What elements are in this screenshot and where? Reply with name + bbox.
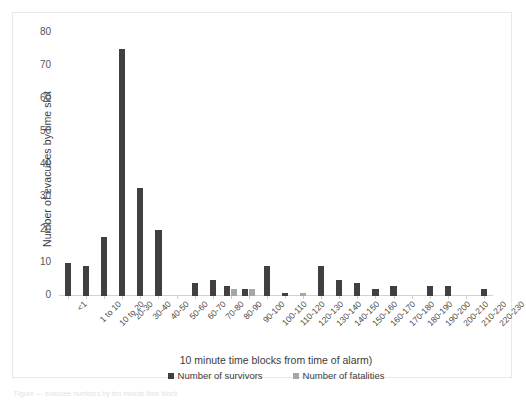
- bar-group: [59, 33, 493, 296]
- bar-survivors[interactable]: [119, 49, 125, 296]
- bar-survivors[interactable]: [192, 283, 198, 296]
- bar-survivors[interactable]: [318, 266, 324, 296]
- bar-survivors[interactable]: [390, 286, 396, 296]
- bar-slot: [276, 33, 294, 296]
- bar-survivors[interactable]: [445, 286, 451, 296]
- x-axis-tick-label: 40-50: [169, 299, 191, 321]
- bar-survivors[interactable]: [83, 266, 89, 296]
- y-axis-tick-label: 30: [25, 190, 51, 201]
- bar-slot: [366, 33, 384, 296]
- bar-slot: [348, 33, 366, 296]
- chart-figure: Number of evacuees by time slot 80706050…: [12, 12, 512, 378]
- y-axis-tick-label: 20: [25, 223, 51, 234]
- x-axis-title: 10 minute time blocks from time of alarm…: [59, 354, 493, 366]
- x-axis-tick-labels: <11 to 1010 to 2020-3030-4040-5050-6060-…: [59, 299, 493, 353]
- legend-entry[interactable]: Number of fatalities: [293, 370, 385, 381]
- bar-fatalities[interactable]: [249, 289, 255, 296]
- legend-label: Number of fatalities: [303, 370, 385, 381]
- y-axis-tick-label: 0: [25, 289, 51, 300]
- bar-slot: [204, 33, 222, 296]
- bar-survivors[interactable]: [224, 286, 230, 296]
- bar-survivors[interactable]: [65, 263, 71, 296]
- bar-survivors[interactable]: [427, 286, 433, 296]
- y-axis-tick-label: 40: [25, 158, 51, 169]
- chart-legend: Number of survivorsNumber of fatalities: [59, 370, 493, 381]
- bar-slot: [222, 33, 240, 296]
- bar-survivors[interactable]: [242, 289, 248, 296]
- y-axis-tick-label: 80: [25, 26, 51, 37]
- bar-survivors[interactable]: [336, 280, 342, 296]
- bar-survivors[interactable]: [137, 188, 143, 296]
- legend-entry[interactable]: Number of survivors: [168, 370, 263, 381]
- bar-survivors[interactable]: [264, 266, 270, 296]
- legend-swatch-icon: [293, 373, 299, 379]
- y-axis-title: Number of evacuees by time slot: [41, 49, 53, 289]
- bar-slot: [240, 33, 258, 296]
- bar-slot: [95, 33, 113, 296]
- y-axis-tick-label: 60: [25, 92, 51, 103]
- bar-slot: [149, 33, 167, 296]
- bar-slot: [186, 33, 204, 296]
- x-axis-tick-label: 60-70: [205, 299, 227, 321]
- y-axis-tick-label: 10: [25, 256, 51, 267]
- x-axis-tick-label: 70-80: [223, 299, 245, 321]
- bar-slot: [294, 33, 312, 296]
- plot-area: 80706050403020100: [59, 33, 493, 296]
- bar-slot: [457, 33, 475, 296]
- y-axis-tick-label: 50: [25, 125, 51, 136]
- bar-fatalities[interactable]: [231, 289, 237, 296]
- bar-slot: [385, 33, 403, 296]
- bar-survivors[interactable]: [155, 230, 161, 296]
- y-axis-tick-label: 70: [25, 59, 51, 70]
- bar-slot: [113, 33, 131, 296]
- legend-label: Number of survivors: [178, 370, 263, 381]
- caption-sliver: Figure — evacuee numbers by ten minute t…: [14, 390, 334, 399]
- bar-survivors[interactable]: [101, 237, 107, 296]
- x-axis-tick-label: 30-40: [151, 299, 173, 321]
- bar-slot: [131, 33, 149, 296]
- bar-slot: [168, 33, 186, 296]
- bar-survivors[interactable]: [210, 280, 216, 296]
- bar-slot: [77, 33, 95, 296]
- x-axis-tick-label: 50-60: [187, 299, 209, 321]
- bar-slot: [330, 33, 348, 296]
- bar-slot: [312, 33, 330, 296]
- bar-survivors[interactable]: [354, 283, 360, 296]
- x-axis-tick-label: <1: [75, 299, 89, 313]
- bar-slot: [421, 33, 439, 296]
- bar-slot: [258, 33, 276, 296]
- bar-slot: [403, 33, 421, 296]
- bar-slot: [475, 33, 493, 296]
- gridline: [59, 296, 493, 297]
- legend-swatch-icon: [168, 373, 174, 379]
- bar-slot: [439, 33, 457, 296]
- bar-slot: [59, 33, 77, 296]
